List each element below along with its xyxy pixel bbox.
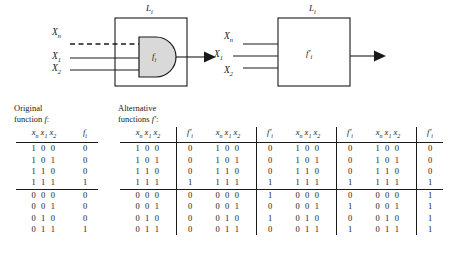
table-row: 1 0 00	[200, 143, 283, 155]
truth-table-alt-1: xn x1 x2 f′i 1 0 001 0 101 1 001 1 110 0…	[120, 127, 203, 235]
caption-alternative: Alternative functions f′:	[118, 103, 158, 124]
truth-table-alt-2: xn x1 x2 f′i 1 0 001 0 101 1 001 1 110 0…	[200, 127, 283, 235]
diagrams-area: Li Xn X1 X2 fi Li Xn X1 X2 f′i	[0, 0, 464, 100]
tables-area: Original function f: Alternative functio…	[0, 103, 464, 270]
diagram-left-graphics	[70, 18, 216, 86]
table-row: 0 0 00	[280, 189, 363, 201]
table-row: 0 1 01	[200, 213, 283, 224]
cell-input-pattern: 0 0 0	[200, 189, 257, 201]
table-body-alt-2: 1 0 001 0 101 1 001 1 110 0 010 0 100 1 …	[200, 143, 283, 236]
caption-alternative-line1: Alternative	[118, 103, 158, 114]
diagrams-svg	[0, 0, 464, 100]
cell-output-value: 0	[417, 166, 444, 177]
cell-output-value: 0	[72, 166, 98, 177]
gate-label-left: fi	[152, 52, 156, 63]
table-row: 0 1 00	[16, 213, 98, 224]
truth-table-original: xn x1 x2 fi 1 0 001 0 101 1 001 1 110 0 …	[16, 127, 98, 235]
table-body-alt-3: 1 0 001 0 101 1 001 1 110 0 000 0 110 1 …	[280, 143, 363, 236]
table-row: 1 0 00	[16, 143, 98, 155]
figure-root: Li Xn X1 X2 fi Li Xn X1 X2 f′i Original …	[0, 0, 464, 270]
cell-output-value: 1	[417, 213, 444, 224]
table-row: 1 0 10	[200, 155, 283, 166]
cell-output-value: 0	[72, 189, 98, 201]
table-row: 1 1 11	[120, 177, 203, 189]
table-row: 0 0 11	[280, 201, 363, 212]
table-row: 1 1 00	[16, 166, 98, 177]
table-row: 1 1 11	[200, 177, 283, 189]
table-row: 0 1 00	[280, 213, 363, 224]
cell-input-pattern: 1 0 1	[280, 155, 337, 166]
table-body-original: 1 0 001 0 101 1 001 1 110 0 000 0 100 1 …	[16, 143, 98, 236]
table-row: 0 0 11	[360, 201, 443, 212]
cell-output-value: 0	[72, 143, 98, 155]
truth-table-alt-3: xn x1 x2 f′i 1 0 001 0 101 1 001 1 110 0…	[280, 127, 363, 235]
cell-input-pattern: 1 1 1	[280, 177, 337, 189]
cell-output-value: 1	[417, 189, 444, 201]
cell-input-pattern: 1 0 0	[280, 143, 337, 155]
block-label-left: Li	[146, 4, 153, 15]
cell-input-pattern: 1 1 1	[120, 177, 177, 189]
table-row: 0 0 10	[16, 201, 98, 212]
cell-input-pattern: 1 1 0	[360, 166, 417, 177]
cell-input-pattern: 1 1 1	[200, 177, 257, 189]
input-label-x1-left: X1	[52, 52, 61, 63]
table-row: 1 1 11	[360, 177, 443, 189]
table-row: 0 1 10	[120, 224, 203, 235]
cell-input-pattern: 1 0 0	[16, 143, 72, 155]
cell-input-pattern: 0 0 0	[280, 189, 337, 201]
table-row: 1 1 11	[16, 177, 98, 189]
caption-original-line2: function f:	[14, 114, 49, 125]
cell-input-pattern: 1 1 1	[360, 177, 417, 189]
cell-output-value: 0	[72, 213, 98, 224]
table-row: 0 0 00	[16, 189, 98, 201]
gate-label-right: f′i	[306, 49, 312, 60]
input-label-xn-right: Xn	[224, 32, 233, 43]
table-row: 1 0 10	[120, 155, 203, 166]
table-row: 1 0 00	[360, 143, 443, 155]
table-row: 1 1 00	[200, 166, 283, 177]
cell-output-value: 1	[417, 177, 444, 189]
table-alt-2: xn x1 x2 f′i 1 0 001 0 101 1 001 1 110 0…	[200, 127, 283, 235]
table-row: 0 1 10	[200, 224, 283, 235]
cell-input-pattern: 0 0 0	[16, 189, 72, 201]
caption-alternative-line2: functions f′:	[118, 114, 158, 125]
cell-input-pattern: 0 0 0	[120, 189, 177, 201]
cell-output-value: 0	[72, 201, 98, 212]
col-header-f: f′i	[417, 127, 444, 143]
input-label-xn-left: Xn	[52, 28, 61, 39]
input-label-x2-right: X2	[224, 66, 233, 77]
cell-input-pattern: 0 0 1	[16, 201, 72, 212]
table-row: 0 0 10	[200, 201, 283, 212]
cell-input-pattern: 0 0 1	[200, 201, 257, 212]
table-row: 1 0 00	[120, 143, 203, 155]
input-label-x2-left: X2	[52, 64, 61, 75]
cell-input-pattern: 0 1 1	[16, 224, 72, 235]
table-row: 0 1 11	[16, 224, 98, 235]
table-alt-1: xn x1 x2 f′i 1 0 001 0 101 1 001 1 110 0…	[120, 127, 203, 235]
col-header-f: fi	[72, 127, 98, 143]
cell-input-pattern: 0 1 1	[360, 224, 417, 235]
cell-input-pattern: 0 1 1	[280, 224, 337, 235]
cell-input-pattern: 0 1 0	[280, 213, 337, 224]
table-alt-4: xn x1 x2 f′i 1 0 001 0 101 1 001 1 110 0…	[360, 127, 443, 235]
cell-input-pattern: 1 0 0	[120, 143, 177, 155]
truth-table-alt-4: xn x1 x2 f′i 1 0 001 0 101 1 001 1 110 0…	[360, 127, 443, 235]
and-gate-shape	[139, 37, 176, 77]
table-body-alt-4: 1 0 001 0 101 1 001 1 110 0 010 0 110 1 …	[360, 143, 443, 236]
table-row: 1 0 10	[16, 155, 98, 166]
cell-input-pattern: 1 1 0	[16, 166, 72, 177]
cell-output-value: 1	[417, 201, 444, 212]
cell-output-value: 1	[72, 177, 98, 189]
table-row: 0 0 01	[360, 189, 443, 201]
cell-input-pattern: 0 0 1	[280, 201, 337, 212]
cell-output-value: 1	[417, 224, 444, 235]
table-alt-3: xn x1 x2 f′i 1 0 001 0 101 1 001 1 110 0…	[280, 127, 363, 235]
cell-input-pattern: 0 1 1	[200, 224, 257, 235]
input-label-x1-right: X1	[214, 50, 223, 61]
table-row: 0 1 00	[120, 213, 203, 224]
table-row: 0 0 01	[200, 189, 283, 201]
cell-input-pattern: 0 1 0	[200, 213, 257, 224]
cell-input-pattern: 0 0 1	[120, 201, 177, 212]
table-row: 0 0 10	[120, 201, 203, 212]
cell-input-pattern: 1 0 1	[16, 155, 72, 166]
